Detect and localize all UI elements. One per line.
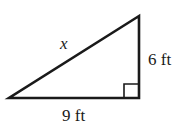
triangle-diagram: x 6 ft 9 ft <box>0 0 190 129</box>
right-angle-marker <box>124 84 139 98</box>
horizontal-leg-label: 9 ft <box>62 107 85 124</box>
triangle-outline <box>9 16 139 98</box>
hypotenuse-label: x <box>60 35 68 52</box>
vertical-leg-label: 6 ft <box>148 51 171 68</box>
